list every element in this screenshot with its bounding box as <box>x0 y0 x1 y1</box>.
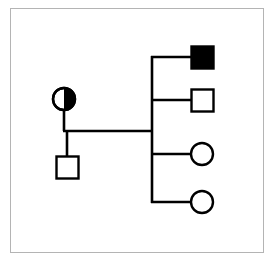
pedigree-symbol-child-3[interactable] <box>191 143 213 165</box>
child-2-square-outline <box>192 90 214 112</box>
pedigree-symbol-child-1[interactable] <box>192 47 214 69</box>
child-1-square-affected <box>192 47 214 69</box>
pedigree-symbol-child-2[interactable] <box>192 90 214 112</box>
child-3-circle-outline <box>191 143 213 165</box>
child-4-circle-outline <box>191 191 213 213</box>
father-square-outline <box>57 157 79 179</box>
pedigree-figure: Pedigree chart Two-generation pedigree: … <box>0 0 270 265</box>
pedigree-symbol-child-4[interactable] <box>191 191 213 213</box>
pedigree-symbol-father[interactable] <box>57 157 79 179</box>
pedigree-canvas <box>0 0 270 265</box>
pedigree-symbol-mother[interactable] <box>53 88 75 110</box>
